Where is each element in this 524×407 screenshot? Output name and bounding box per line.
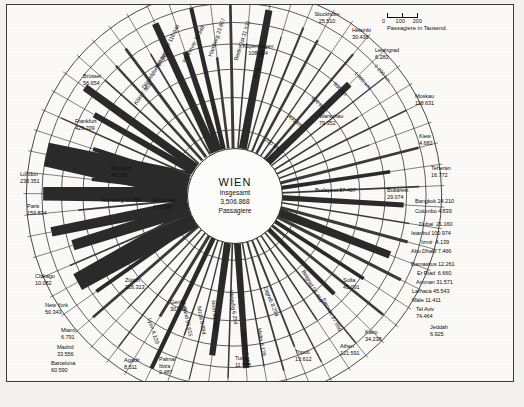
leader-kiew [281,5,294,37]
scale-label-100: 100 [396,18,406,24]
label-tripoli: Tripoli 13.612 [295,349,339,362]
label-istanbul: Istanbul 100.974 [411,230,487,237]
label-brussel: Brüssel 56.654 [83,73,131,86]
label-madrid: Madrid 33.556 [57,344,103,357]
label-amman: Amman 31.571 [416,279,490,286]
label-male: Male 11.411 [412,297,482,304]
leader-barcelona [144,368,152,381]
leader-m-nchen [33,245,73,257]
label-dubai: Dubai 21.160 [419,221,489,228]
label-new-york: New York 50.343 [45,302,99,315]
leader-miami [107,347,119,363]
chart-frame: 200 km400 km600 km800 km1 000 km1 200 km… [6,4,514,382]
scale-label-200: 200 [413,18,423,24]
label-abu-dhabi: Abu Dhabi 7.466 [411,248,487,255]
center-hub: WIEN Insgesamt 3,506.868 Passagiere [187,148,283,244]
label-sofia: Sofia 45.091 [343,277,360,290]
label-frankfurt: Frankfurt 429.209 [75,118,127,131]
label-budapest: Budapest 57.407 [315,187,395,194]
label-colombo: Colombo 4.839 [415,208,485,215]
label-teheran: Teheran 16.772 [431,165,477,178]
label-jeddah: Jeddah 6.925 [430,324,474,337]
leader-amsterdam [63,72,85,88]
label-miami: Miami 6.791 [61,327,103,340]
bar-bangkok [255,40,319,155]
center-city-name: WIEN [218,176,251,188]
leader-berlin-ost [109,26,126,49]
label-london: London 238.351 [20,171,70,184]
scale-tick-labels: 0 100 200 [382,18,505,24]
leader-monastir [322,362,332,381]
leader-prag [127,14,151,54]
label-er-riad: Er Riad 6.660 [417,270,491,277]
leader-venedig [264,367,270,381]
label-barcelona: Barcelona 60.590 [51,360,105,373]
legend-caption: Passagiere in Tausend. [387,25,505,31]
label-paris: Paris 159.834 [27,203,75,216]
scale-bar [387,11,505,18]
label-agadir: Agadir 8.511 [124,357,160,370]
leader-k-ln [42,109,61,118]
label-athen: Athen 121.591 [340,343,388,356]
leader-bukarest [383,315,398,327]
leader-colombo [331,21,353,53]
center-total-label: Insgesamt [220,189,250,198]
label-stuttgart: Stuttgart 46.588 [111,165,161,178]
label-izmir: Izmir 4.139 [421,239,491,246]
label-kiew: Kiew 4.682 [419,133,459,146]
label-stockholm: Stockholm 25.510 [297,11,357,24]
leader-paris [28,232,52,237]
label-genf: Genf 30.232 [170,299,214,312]
label-palma-ibiza: Palma/ Ibiza 2.487 [159,356,193,376]
figure-page: 200 km400 km600 km800 km1 000 km1 200 km… [0,0,524,407]
leader-moskau [269,5,273,10]
label-moskau: Moskau 110.631 [415,93,465,106]
label-chikago: Chikago 10.082 [35,273,85,286]
label-zurich: Zürich 316.313 [125,277,173,290]
center-total-value: 3,506.868 [220,198,249,207]
label-larnaca: Larnaca 45.543 [412,288,488,295]
leader-mailand [206,355,213,381]
label-tel-aviv: Tel Aviv 74.464 [416,306,462,319]
label-warschau: Warschau 79.352 [319,113,373,126]
leader-kopenhagen [146,5,155,24]
label-tunis: Tunis 11.575 [235,355,279,368]
leader-tel-aviv [404,205,445,207]
center-total-unit: Passagiere [219,207,252,216]
scale-legend: 0 100 200 Passagiere in Tausend. [373,11,505,31]
scale-label-0: 0 [382,18,385,24]
label-kairo: Kairo 34.238 [365,329,409,342]
label-damaskus: Damaskus 12.261 [411,261,491,268]
leader-rom [246,368,249,381]
label-bukarest: Bukarest 29.074 [387,187,437,200]
label-leningrad: Leningrad 6.281 [375,47,427,60]
bar-helsinki [229,5,235,148]
leader-nizza [227,378,228,381]
